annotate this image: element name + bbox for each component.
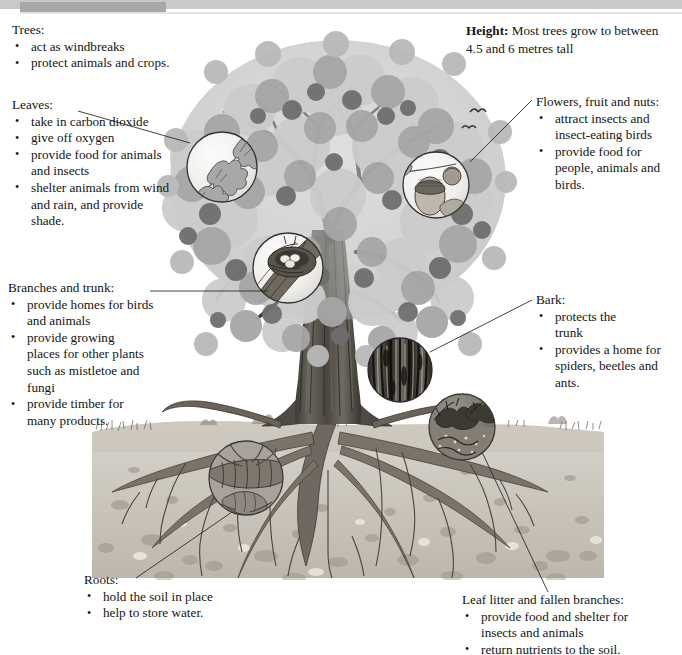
callout-bark: Bark: protects the trunk provides a home… (536, 292, 667, 392)
callout-trees-heading: Trees: (12, 22, 169, 39)
list-item: return nutrients to the soil. (462, 642, 661, 655)
list-item: provide food and shelter for insects and… (462, 609, 661, 642)
list-item: provide homes for birds and animals (8, 297, 165, 330)
list-item: give off oxygen (12, 130, 179, 147)
callout-leaves: Leaves: take in carbon dioxide give off … (12, 97, 179, 230)
callout-bark-heading: Bark: (536, 292, 667, 309)
list-item: provide food for animals and insects (12, 147, 179, 180)
callout-leaves-list: take in carbon dioxide give off oxygen p… (12, 114, 179, 230)
callout-height-label: Height: (466, 23, 509, 38)
callout-leaves-heading: Leaves: (12, 97, 179, 114)
callout-flowers-fruit-nuts: Flowers, fruit and nuts: attract insects… (536, 94, 682, 194)
list-item: hold the soil in place (84, 589, 213, 606)
list-item: shelter animals from wind and rain, and … (12, 180, 171, 230)
callout-roots: Roots: hold the soil in place help to st… (84, 572, 213, 622)
callout-litter-list: provide food and shelter for insects and… (462, 609, 661, 655)
callout-bark-list: protects the trunk provides a home for s… (536, 309, 667, 392)
list-item: protect animals and crops. (12, 55, 169, 72)
list-item: provides a home for spiders, beetles and… (536, 342, 667, 392)
callout-roots-heading: Roots: (84, 572, 213, 589)
callout-branches-list: provide homes for birds and animals prov… (8, 297, 165, 430)
list-item: act as windbreaks (12, 39, 169, 56)
list-item: provide food for people, animals and bir… (536, 144, 673, 194)
list-item: attract insects and insect-eating birds (536, 111, 682, 144)
list-item: protects the trunk (536, 309, 625, 342)
callout-litter-heading: Leaf litter and fallen branches: (462, 592, 661, 609)
diagram-page: Trees: act as windbreaks protect animals… (0, 0, 682, 655)
callout-height: Height: Most trees grow to between 4.5 a… (466, 22, 678, 57)
callout-roots-list: hold the soil in place help to store wat… (84, 589, 213, 622)
callout-branches-heading: Branches and trunk: (8, 280, 165, 297)
callout-flowers-list: attract insects and insect-eating birds … (536, 111, 682, 194)
list-item: take in carbon dioxide (12, 114, 151, 131)
callout-trees-list: act as windbreaks protect animals and cr… (12, 39, 169, 72)
callout-leaf-litter: Leaf litter and fallen branches: provide… (462, 592, 661, 655)
list-item: provide growing places for other plants … (8, 330, 149, 396)
list-item: provide timber for many products. (8, 396, 139, 429)
callout-branches-trunk: Branches and trunk: provide homes for bi… (8, 280, 165, 429)
callout-flowers-heading: Flowers, fruit and nuts: (536, 94, 632, 111)
callout-trees: Trees: act as windbreaks protect animals… (12, 22, 169, 72)
list-item: help to store water. (84, 605, 213, 622)
